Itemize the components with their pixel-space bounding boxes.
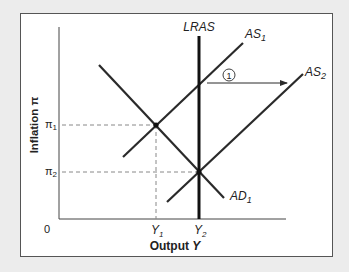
y-axis-title: Inflation π — [28, 96, 40, 153]
x-axis-title: Output Y — [150, 239, 202, 253]
equilibrium-point-2 — [196, 169, 201, 174]
step-marker-label: 1 — [226, 71, 231, 81]
as1-label: AS1 — [244, 27, 266, 43]
as2-label: AS2 — [304, 65, 326, 81]
origin-label: 0 — [44, 223, 50, 235]
lras-label: LRAS — [183, 20, 214, 34]
ad1-label: AD1 — [229, 189, 252, 205]
y2-tick-label: Y2 — [194, 223, 207, 239]
ad1-curve — [99, 65, 224, 198]
as2-curve — [167, 74, 303, 202]
equilibrium-point-1 — [153, 122, 158, 127]
y1-tick-label: Y1 — [151, 223, 163, 239]
pi2-tick-label: π2 — [45, 165, 58, 179]
pi1-tick-label: π1 — [45, 118, 58, 132]
as1-curve — [123, 43, 243, 157]
as-ad-diagram: 1 LRAS AS1 AS2 AD1 π1 π2 Y1 Y2 0 Output … — [0, 0, 349, 272]
